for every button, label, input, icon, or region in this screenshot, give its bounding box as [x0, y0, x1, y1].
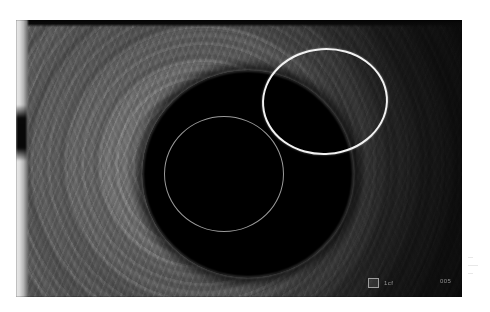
- lumen-inner-ring: [164, 116, 284, 232]
- figure-root: 1cf 005 — —— —: [0, 0, 490, 312]
- overlay-depth-text: 005: [440, 278, 451, 284]
- near-field-top-band: [16, 20, 462, 27]
- machine-overlay-row: 1cf: [368, 278, 393, 288]
- caption-line: ——: [468, 262, 490, 267]
- caption-fragment: — —— —: [468, 254, 490, 275]
- caption-line: —: [468, 270, 490, 275]
- transducer-dark-notch: [16, 106, 27, 160]
- caption-line: —: [468, 254, 490, 259]
- overlay-marker-icon: [368, 278, 379, 288]
- overlay-scale-text: 1cf: [384, 280, 393, 286]
- ultrasound-image-frame: 1cf 005: [16, 20, 462, 297]
